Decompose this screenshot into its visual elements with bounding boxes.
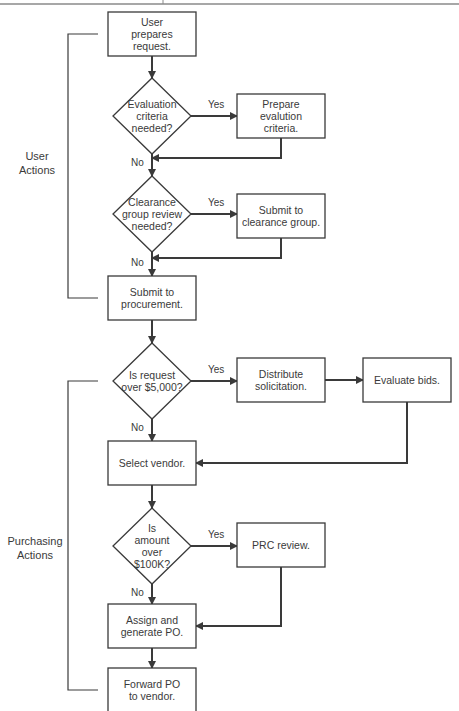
node-n8: PRC review. <box>237 523 325 567</box>
node-n10: Forward POto vendor. <box>108 668 196 711</box>
node-text: Select vendor. <box>119 457 186 469</box>
node-n5: Distributesolicitation. <box>237 358 325 402</box>
node-text: evalution <box>260 110 302 122</box>
edge-label-no: No <box>131 257 144 268</box>
node-text: Submit to <box>130 286 175 298</box>
group-label-user: Actions <box>19 164 56 176</box>
node-text: procurement. <box>121 298 183 310</box>
node-text: needed? <box>132 122 173 134</box>
edge-label-no: No <box>131 422 144 433</box>
group-bracket-purchasing <box>68 381 98 690</box>
node-n6: Evaluate bids. <box>363 358 451 402</box>
header-rule-layer <box>0 0 459 4</box>
node-text: request. <box>133 40 171 52</box>
group-label-purchasing: Actions <box>17 549 54 561</box>
edge-label-yes: Yes <box>208 529 224 540</box>
node-n7: Select vendor. <box>108 441 196 485</box>
node-n2: Prepareevalutioncriteria. <box>237 94 325 138</box>
node-n9: Assign andgenerate PO. <box>108 604 196 648</box>
node-text: prepares <box>131 28 172 40</box>
node-text: User <box>141 16 164 28</box>
node-text: amount <box>134 534 169 546</box>
node-text: Is request <box>129 369 175 381</box>
nodes-layer: Userpreparesrequest.Evaluationcriteriane… <box>108 12 451 711</box>
edge-label-yes: Yes <box>208 364 224 375</box>
node-text: Evaluate bids. <box>374 374 440 386</box>
group-bracket-user <box>68 34 98 298</box>
node-d1: Evaluationcriterianeeded? <box>113 78 191 154</box>
node-text: Assign and <box>126 614 178 626</box>
node-text: needed? <box>132 220 173 232</box>
group-brackets-layer <box>68 34 98 690</box>
node-text: PRC review. <box>252 539 310 551</box>
group-label-user: User <box>25 150 49 162</box>
node-text: to vendor. <box>129 690 175 702</box>
node-text: solicitation. <box>255 380 307 392</box>
node-text: Is <box>148 522 156 534</box>
node-text: Distribute <box>259 368 304 380</box>
node-d3: Is requestover $5,000? <box>113 343 191 419</box>
edge-label-no: No <box>131 587 144 598</box>
node-text: over $5,000? <box>121 381 182 393</box>
edge-label-no: No <box>131 157 144 168</box>
node-d2: Clearancegroup reviewneeded? <box>113 176 191 252</box>
node-text: $100K? <box>134 558 170 570</box>
group-label-purchasing: Purchasing <box>7 535 62 547</box>
node-d4: Isamountover$100K? <box>113 508 191 584</box>
node-text: criteria. <box>264 122 298 134</box>
node-text: over <box>142 546 163 558</box>
labels-layer: UserActionsPurchasingActionsYesNoYesNoYe… <box>7 99 224 598</box>
node-text: Clearance <box>128 196 176 208</box>
edge-label-yes: Yes <box>208 99 224 110</box>
flowchart-canvas: Userpreparesrequest.Evaluationcriteriane… <box>0 0 459 711</box>
node-text: generate PO. <box>121 626 183 638</box>
node-text: Evaluation <box>127 98 176 110</box>
node-text: clearance group. <box>242 216 320 228</box>
node-text: criteria <box>136 110 168 122</box>
node-n1: Userpreparesrequest. <box>108 12 196 56</box>
node-text: Submit to <box>259 204 304 216</box>
node-text: group review <box>122 208 183 220</box>
edge-n6-n7 <box>196 402 407 463</box>
node-n3: Submit toclearance group. <box>237 194 325 238</box>
edge-n3-n4 <box>152 238 281 258</box>
node-text: Forward PO <box>124 678 181 690</box>
node-text: Prepare <box>262 98 300 110</box>
edge-label-yes: Yes <box>208 197 224 208</box>
edge-n8-n9 <box>196 567 281 626</box>
node-n4: Submit toprocurement. <box>108 276 196 320</box>
edge-n2-d2 <box>152 138 281 158</box>
